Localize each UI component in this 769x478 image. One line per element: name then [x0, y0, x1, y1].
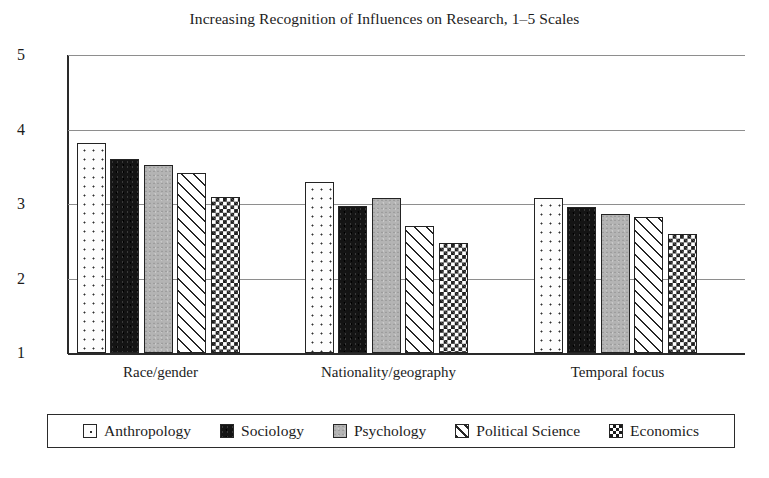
y-tick-label-2: 2: [0, 271, 25, 287]
legend-label: Economics: [630, 423, 699, 439]
y-tick-label-3: 3: [0, 196, 25, 212]
gridline-1: [68, 353, 745, 355]
bar-political-science-temporal-focus[interactable]: [634, 217, 663, 353]
bar-sociology-temporal-focus[interactable]: [567, 207, 596, 353]
bar-anthropology-race-gender[interactable]: [77, 143, 106, 353]
gridline-5: [68, 55, 745, 56]
x-axis-label-temporal-focus: Temporal focus: [508, 364, 728, 381]
legend-item-political-science[interactable]: Political Science: [455, 423, 580, 439]
bar-anthropology-temporal-focus[interactable]: [534, 198, 563, 353]
figure-caption: [56, 463, 756, 478]
bar-psychology-race-gender[interactable]: [144, 165, 173, 353]
legend-item-sociology[interactable]: Sociology: [220, 423, 304, 439]
legend-swatch-dotted-icon: [83, 424, 97, 438]
bar-psychology-temporal-focus[interactable]: [601, 214, 630, 353]
legend-item-anthropology[interactable]: Anthropology: [83, 423, 191, 439]
bar-economics-race-gender[interactable]: [211, 197, 240, 353]
gridline-4: [68, 130, 745, 131]
plot-area: [68, 55, 745, 353]
bar-sociology-nationality-geography[interactable]: [338, 206, 367, 353]
legend-item-economics[interactable]: Economics: [609, 423, 699, 439]
bar-political-science-nationality-geography[interactable]: [405, 226, 434, 353]
legend-label: Anthropology: [104, 423, 191, 439]
bar-anthropology-nationality-geography[interactable]: [305, 182, 334, 353]
y-tick-label-5: 5: [0, 47, 25, 63]
legend-item-psychology[interactable]: Psychology: [333, 423, 426, 439]
legend-label: Sociology: [241, 423, 304, 439]
chart-legend[interactable]: AnthropologySociologyPsychologyPolitical…: [47, 414, 735, 448]
x-axis-label-race-gender: Race/gender: [51, 364, 271, 381]
legend-swatch-solid-icon: [220, 424, 234, 438]
y-tick-label-4: 4: [0, 122, 25, 138]
legend-label: Psychology: [354, 423, 426, 439]
legend-label: Political Science: [476, 423, 580, 439]
bar-economics-temporal-focus[interactable]: [668, 234, 697, 353]
legend-swatch-check-icon: [609, 424, 623, 438]
bar-sociology-race-gender[interactable]: [110, 159, 139, 353]
legend-swatch-gray-icon: [333, 424, 347, 438]
chart-title: Increasing Recognition of Influences on …: [0, 10, 769, 28]
y-tick-label-1: 1: [0, 345, 25, 361]
bar-economics-nationality-geography[interactable]: [439, 243, 468, 353]
x-axis-label-nationality-geography: Nationality/geography: [279, 364, 499, 381]
legend-swatch-hatch-icon: [455, 424, 469, 438]
bar-psychology-nationality-geography[interactable]: [372, 198, 401, 353]
bar-political-science-race-gender[interactable]: [177, 173, 206, 353]
